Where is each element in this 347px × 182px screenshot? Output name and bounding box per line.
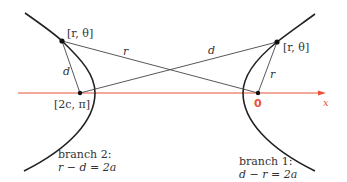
point-origin — [256, 91, 260, 95]
segment-right-r-label: r — [270, 69, 275, 80]
point-right — [274, 39, 279, 44]
branch-1-name: branch 1: — [239, 155, 297, 168]
branch-2-caption: branch 2: r − d = 2a — [58, 148, 116, 174]
branch-2-name: branch 2: — [58, 148, 116, 161]
segment-left-r — [62, 41, 258, 93]
branch-1-equation: d − r = 2a — [239, 168, 297, 181]
segment-left-r-label: r — [123, 46, 128, 57]
segment-right-d-label: d — [208, 45, 215, 56]
hyperbola-diagram: [r, θ] [r, θ] [2c, π] 0 x r d d r branch… — [0, 0, 347, 182]
segment-right-d — [80, 42, 277, 93]
branch-2-equation: r − d = 2a — [58, 161, 116, 174]
origin-label: 0 — [254, 98, 262, 109]
point-left-focus — [78, 91, 82, 95]
left-focus-label: [2c, π] — [54, 99, 90, 110]
branch-1-caption: branch 1: d − r = 2a — [239, 155, 297, 181]
x-axis-arrow-icon — [318, 91, 326, 96]
segment-left-d-label: d — [63, 66, 70, 77]
x-axis-label: x — [323, 98, 329, 108]
right-point-label: [r, θ] — [283, 42, 309, 53]
left-point-label: [r, θ] — [67, 28, 93, 39]
point-left — [59, 38, 64, 43]
